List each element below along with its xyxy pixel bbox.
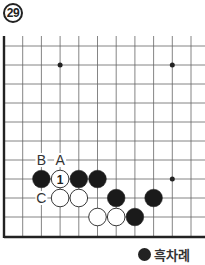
- black-stone: [107, 189, 125, 207]
- white-stone: [70, 189, 88, 207]
- star-point: [170, 177, 175, 182]
- white-stone: [107, 208, 125, 226]
- point-label-a: A: [55, 152, 65, 168]
- black-stone: [33, 170, 51, 188]
- go-board: BAC1: [0, 0, 205, 265]
- black-stone: [70, 170, 88, 188]
- star-point: [58, 63, 63, 68]
- point-label-b: B: [37, 152, 46, 168]
- black-stone: [126, 208, 144, 226]
- black-stone: [145, 189, 163, 207]
- turn-caption: 흑차례: [138, 245, 190, 264]
- black-stone-icon: [138, 248, 151, 261]
- black-stone: [89, 170, 107, 188]
- point-label-c: C: [36, 190, 46, 206]
- white-stone: [89, 208, 107, 226]
- turn-text: 흑차례: [154, 245, 190, 264]
- move-number-label: 1: [57, 173, 64, 187]
- white-stone: [51, 189, 69, 207]
- star-point: [170, 63, 175, 68]
